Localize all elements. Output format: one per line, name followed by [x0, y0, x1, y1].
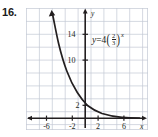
coordinate-plane-svg: 14 10 2 -6 -2 2 6 y x [26, 8, 148, 130]
y-axis [83, 9, 88, 129]
x-tick-label-2: 2 [96, 122, 100, 130]
figure-container: 16. [0, 0, 158, 137]
x-tick-label-neg6: -6 [43, 122, 50, 130]
equation-exponent: x [121, 31, 124, 38]
exponential-curve [49, 10, 140, 118]
y-tick-label-2: 2 [76, 101, 80, 110]
x-axis-label: x [139, 122, 144, 130]
y-tick-label-14: 14 [68, 30, 76, 39]
equation-fraction: 23 [112, 33, 116, 48]
x-tick-label-6: 6 [122, 122, 126, 130]
y-axis-label: y [90, 9, 95, 18]
graph-plot: 14 10 2 -6 -2 2 6 y x [26, 8, 148, 130]
y-tick-label-10: 10 [68, 56, 76, 65]
fraction-denominator: 3 [112, 40, 116, 47]
x-tick-label-neg2: -2 [69, 122, 76, 130]
equation-annotation: y=4(23)x [92, 33, 124, 48]
problem-number: 16. [2, 6, 17, 18]
